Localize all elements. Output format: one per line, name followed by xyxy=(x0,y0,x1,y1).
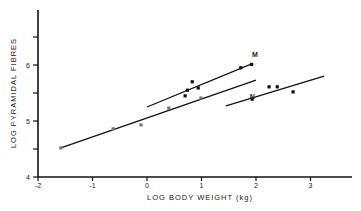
x-tick-label: 0 xyxy=(145,182,149,189)
annotation-label: N xyxy=(250,93,255,100)
regression-line xyxy=(147,64,252,107)
data-point xyxy=(250,63,253,66)
data-point xyxy=(199,96,202,99)
annotation-label: M xyxy=(252,51,258,58)
data-point xyxy=(267,85,270,88)
data-point xyxy=(112,127,115,130)
data-point xyxy=(186,89,189,92)
y-axis-title: LOG PYRAMIDAL FIBRES xyxy=(9,38,18,148)
chart: 456 -2-10123 MN LOG BODY WEIGHT (kg) LOG… xyxy=(0,0,361,211)
data-point xyxy=(239,66,242,69)
data-point xyxy=(197,86,200,89)
data-point xyxy=(59,146,62,149)
data-point xyxy=(291,90,294,93)
axes xyxy=(38,10,352,177)
y-ticks: 456 xyxy=(26,37,38,181)
annotations: MN xyxy=(250,51,258,101)
data-point xyxy=(191,80,194,83)
x-tick-label: -1 xyxy=(89,182,95,189)
x-tick-label: 3 xyxy=(309,182,313,189)
regression-lines xyxy=(61,64,324,148)
y-tick-label: 4 xyxy=(26,174,30,181)
x-ticks: -2-10123 xyxy=(35,177,313,189)
data-point xyxy=(276,85,279,88)
y-tick-label: 5 xyxy=(26,118,30,125)
regression-line xyxy=(226,76,324,106)
x-tick-label: 2 xyxy=(254,182,258,189)
data-point xyxy=(184,94,187,97)
regression-line xyxy=(61,80,256,148)
x-tick-label: -2 xyxy=(35,182,41,189)
data-point xyxy=(167,107,170,110)
x-tick-label: 1 xyxy=(200,182,204,189)
y-tick-label: 6 xyxy=(26,62,30,69)
data-point xyxy=(139,123,142,126)
x-axis-title: LOG BODY WEIGHT (kg) xyxy=(147,193,253,202)
